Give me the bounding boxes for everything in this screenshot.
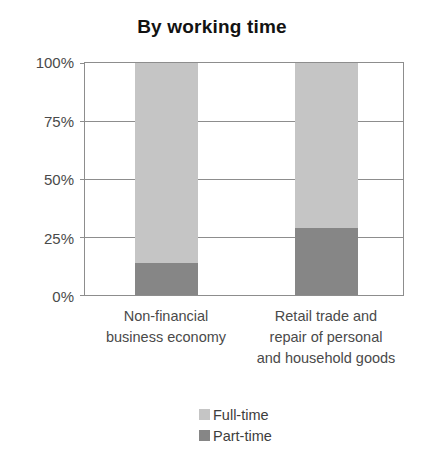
y-tick-label-100: 100% — [14, 54, 74, 71]
bar-stack-retail-trade-repair[interactable] — [295, 63, 358, 295]
legend-item-full-time[interactable]: Full-time — [199, 404, 272, 425]
y-axis-tick-labels: 100% 75% 50% 25% 0% — [10, 62, 74, 296]
y-tick-label-25: 25% — [14, 229, 74, 246]
axis-tick-100 — [80, 63, 85, 64]
y-tick-label-75: 75% — [14, 112, 74, 129]
axis-tick-50 — [80, 179, 85, 180]
x-category-line: and household goods — [241, 348, 411, 369]
axis-tick-75 — [80, 121, 85, 122]
x-category-line: Non-financial — [81, 306, 251, 327]
bar-segment-part-time[interactable] — [135, 263, 198, 295]
x-category-line: business economy — [81, 327, 251, 348]
chart-figure: By working time 100% 75% 50% 25% 0% Non — [0, 0, 424, 462]
plot-area — [84, 62, 404, 296]
bar-segment-full-time[interactable] — [295, 63, 358, 228]
x-axis-category-labels: Non-financial business economy Retail tr… — [84, 306, 404, 392]
legend-label-part-time: Part-time — [213, 428, 272, 444]
bar-segment-part-time[interactable] — [295, 228, 358, 295]
chart-legend: Full-time Part-time — [199, 404, 272, 446]
axis-tick-0 — [80, 295, 85, 296]
legend-swatch-part-time — [199, 430, 210, 441]
legend-swatch-full-time — [199, 409, 210, 420]
legend-item-part-time[interactable]: Part-time — [199, 425, 272, 446]
x-category-label-non-financial-business-economy: Non-financial business economy — [81, 306, 251, 348]
x-category-line: repair of personal — [241, 327, 411, 348]
legend-label-full-time: Full-time — [213, 407, 269, 423]
y-tick-label-0: 0% — [14, 288, 74, 305]
chart-title: By working time — [0, 16, 424, 38]
x-category-label-retail-trade-repair: Retail trade and repair of personal and … — [241, 306, 411, 369]
bar-segment-full-time[interactable] — [135, 63, 198, 263]
axis-tick-25 — [80, 237, 85, 238]
bar-stack-non-financial-business-economy[interactable] — [135, 63, 198, 295]
y-tick-label-50: 50% — [14, 171, 74, 188]
x-category-line: Retail trade and — [241, 306, 411, 327]
